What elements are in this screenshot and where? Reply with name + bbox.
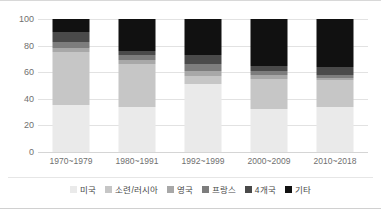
bar-segment[interactable] — [53, 19, 90, 32]
gridline-0 — [38, 152, 368, 153]
bar-segment[interactable] — [119, 19, 156, 51]
bar-segment[interactable] — [53, 32, 90, 41]
legend-label: 4개국 — [255, 183, 276, 195]
stacked-bar[interactable] — [119, 19, 156, 152]
bar-segment[interactable] — [53, 48, 90, 52]
legend-item[interactable]: 영국 — [167, 183, 193, 195]
bar-segment[interactable] — [317, 67, 354, 75]
bar-segment[interactable] — [185, 64, 222, 71]
bar-segment[interactable] — [317, 80, 354, 107]
bar-segment[interactable] — [53, 42, 90, 49]
bar-segment[interactable] — [251, 109, 288, 152]
legend-swatch-icon — [202, 186, 209, 193]
bar-segment[interactable] — [317, 19, 354, 67]
legend-label: 영국 — [177, 183, 193, 195]
stacked-bar[interactable] — [185, 19, 222, 152]
x-axis-labels: 1970~19791980~19911992~19992000~20092010… — [38, 156, 368, 170]
x-tick-label: 1980~1991 — [116, 156, 159, 166]
x-tick-label: 1970~1979 — [50, 156, 93, 166]
bar-segment[interactable] — [185, 55, 222, 64]
bar-segment[interactable] — [185, 19, 222, 55]
bar-segment[interactable] — [119, 55, 156, 60]
legend-swatch-icon — [167, 186, 174, 193]
bar-segment[interactable] — [53, 52, 90, 105]
bar-group[interactable] — [104, 19, 170, 152]
bar-group[interactable] — [236, 19, 302, 152]
bar-group[interactable] — [302, 19, 368, 152]
bar-group[interactable] — [38, 19, 104, 152]
bar-segment[interactable] — [185, 76, 222, 84]
stacked-bar[interactable] — [317, 19, 354, 152]
legend-label: 기타 — [295, 183, 311, 195]
bar-segment[interactable] — [317, 75, 354, 78]
legend-label: 소련/러시아 — [115, 183, 157, 195]
x-tick-label: 1992~1999 — [182, 156, 225, 166]
chart-frame: 020406080100 1970~19791980~19911992~1999… — [0, 0, 381, 209]
chart-legend: 미국소련/러시아영국프랑스4개국기타 — [0, 183, 381, 195]
x-tick-label: 2000~2009 — [248, 156, 291, 166]
bar-segment[interactable] — [119, 60, 156, 64]
bar-segment[interactable] — [185, 71, 222, 76]
legend-label: 프랑스 — [212, 183, 236, 195]
legend-swatch-icon — [285, 186, 292, 193]
y-tick-label-100: 100 — [19, 15, 34, 24]
bar-segment[interactable] — [119, 64, 156, 107]
legend-swatch-icon — [245, 186, 252, 193]
y-axis-labels: 020406080100 — [0, 19, 34, 152]
stacked-bar[interactable] — [53, 19, 90, 152]
plot-area — [38, 19, 368, 152]
bar-segment[interactable] — [251, 66, 288, 71]
legend-item[interactable]: 기타 — [285, 183, 311, 195]
legend-swatch-icon — [70, 186, 77, 193]
bar-segment[interactable] — [251, 75, 288, 79]
bar-segment[interactable] — [317, 107, 354, 152]
bar-segment[interactable] — [317, 78, 354, 81]
legend-item[interactable]: 4개국 — [245, 183, 276, 195]
legend-item[interactable]: 프랑스 — [202, 183, 236, 195]
bar-segment[interactable] — [251, 79, 288, 110]
bar-segment[interactable] — [119, 107, 156, 152]
y-tick-label-40: 40 — [24, 95, 34, 104]
x-tick-label: 2010~2018 — [314, 156, 357, 166]
bar-group[interactable] — [170, 19, 236, 152]
bar-segment[interactable] — [119, 51, 156, 55]
legend-item[interactable]: 미국 — [70, 183, 96, 195]
stacked-bar[interactable] — [251, 19, 288, 152]
y-tick-label-80: 80 — [24, 42, 34, 51]
y-tick-label-20: 20 — [24, 121, 34, 130]
bar-segment[interactable] — [251, 71, 288, 75]
y-tick-label-0: 0 — [29, 148, 34, 157]
legend-item[interactable]: 소련/러시아 — [105, 183, 157, 195]
bar-segment[interactable] — [251, 19, 288, 66]
bar-segment[interactable] — [185, 84, 222, 152]
legend-divider — [8, 177, 373, 178]
legend-swatch-icon — [105, 186, 112, 193]
y-tick-label-60: 60 — [24, 68, 34, 77]
legend-label: 미국 — [80, 183, 96, 195]
bar-segment[interactable] — [53, 105, 90, 152]
bar-series-container — [38, 19, 368, 152]
